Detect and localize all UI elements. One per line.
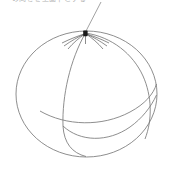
great-circle-equator bbox=[40, 84, 157, 123]
meridian-right-limb bbox=[86, 33, 151, 139]
pole-leader-line bbox=[86, 2, 102, 32]
north-pole-vertex bbox=[83, 31, 87, 37]
figure-root: の向きを上面下とする bbox=[0, 0, 170, 172]
sphere-outline bbox=[16, 31, 157, 157]
meridian-front-left bbox=[63, 33, 86, 157]
sphere-diagram-svg bbox=[0, 0, 170, 172]
